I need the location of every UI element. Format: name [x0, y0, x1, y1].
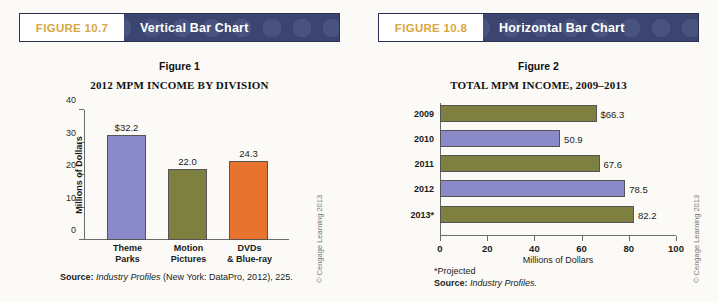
- projected-footnote: *Projected: [434, 266, 476, 276]
- bar-value-2009: $66.3: [601, 108, 625, 119]
- y-tick-0: [79, 239, 84, 240]
- source-prefix: Source:: [60, 272, 94, 282]
- y-tick-label-40: 40: [66, 95, 76, 105]
- bar-value-2012: 78.5: [629, 183, 648, 194]
- source-prefix: Source:: [434, 278, 468, 288]
- source-title: Industry Profiles.: [470, 278, 537, 288]
- category-label-dvds-blue-ray: DVDs & Blue-ray: [216, 243, 283, 265]
- banner-title-left: Vertical Bar Chart: [124, 14, 249, 41]
- category-label-2010: 2010: [414, 134, 434, 144]
- vertical-plot-area: 0 10 20 30 40 Millions of Dollars $32.2 …: [84, 110, 289, 240]
- y-tick-40: [79, 109, 84, 110]
- banner-title-right: Horizontal Bar Chart: [483, 14, 625, 41]
- figure-banner-left: FIGURE 10.7 Vertical Bar Chart: [19, 13, 340, 42]
- bar-value-2013: 82.2: [638, 209, 657, 220]
- figure-label-left: Figure 1: [0, 60, 359, 72]
- category-line-2: Parks: [115, 254, 140, 264]
- horizontal-plot-area: 0 20 40 60 80 100 2009 $66.3 2010 50.9 2…: [440, 103, 676, 236]
- bar-2011: 2011 67.6: [440, 155, 600, 172]
- bar-2013: 2013* 82.2: [440, 206, 634, 223]
- x-tick-80: [629, 236, 630, 241]
- category-line-2: & Blue-ray: [227, 254, 272, 264]
- copyright-right: © Cengage Learning 2013: [692, 195, 701, 283]
- figure-number-tag-left: FIGURE 10.7: [20, 14, 124, 41]
- bar-value-dvds-blue-ray: 24.3: [230, 148, 267, 159]
- x-tick-20: [487, 236, 488, 241]
- x-tick-100: [676, 236, 677, 241]
- source-line-right: Source: Industry Profiles.: [434, 278, 537, 288]
- bar-2009: 2009 $66.3: [440, 105, 597, 122]
- x-tick-40: [534, 236, 535, 241]
- vertical-bar-chart-panel: FIGURE 10.7 Vertical Bar Chart Figure 1 …: [0, 0, 359, 301]
- x-axis-line: [440, 235, 676, 236]
- bar-theme-parks: $32.2 Theme Parks: [107, 135, 146, 240]
- source-detail: (New York: DataPro, 2012), 225.: [163, 272, 293, 282]
- x-tick-0: [440, 236, 441, 241]
- y-axis-line: [84, 110, 85, 240]
- x-tick-label-60: 60: [576, 243, 587, 254]
- bar-value-theme-parks: $32.2: [108, 122, 145, 133]
- source-title: Industry Profiles: [96, 272, 161, 282]
- chart-title-left: 2012 MPM INCOME BY DIVISION: [0, 79, 359, 91]
- x-axis-title: Millions of Dollars: [440, 255, 676, 265]
- bar-motion-pictures: 22.0 Motion Pictures: [168, 169, 207, 241]
- y-axis-title: Millions of Dollars: [74, 136, 84, 214]
- category-label-2009: 2009: [414, 109, 434, 119]
- x-tick-label-40: 40: [529, 243, 540, 254]
- figure-banner-right: FIGURE 10.8 Horizontal Bar Chart: [378, 13, 699, 42]
- y-tick-label-0: 0: [71, 225, 76, 235]
- bar-value-motion-pictures: 22.0: [169, 156, 206, 167]
- category-line-1: DVDs: [237, 243, 261, 253]
- bar-2012: 2012 78.5: [440, 180, 625, 197]
- category-label-2011: 2011: [414, 159, 434, 169]
- category-label-2013: 2013*: [410, 210, 434, 220]
- category-label-theme-parks: Theme Parks: [96, 243, 159, 265]
- copyright-left: © Cengage Learning 2013: [315, 195, 324, 283]
- category-label-2012: 2012: [414, 184, 434, 194]
- category-label-motion-pictures: Motion Pictures: [157, 243, 220, 265]
- category-line-1: Theme: [113, 243, 142, 253]
- bar-dvds-blue-ray: 24.3 DVDs & Blue-ray: [229, 161, 268, 240]
- bar-2010: 2010 50.9: [440, 130, 560, 147]
- category-line-2: Pictures: [171, 254, 207, 264]
- bar-value-2011: 67.6: [604, 158, 623, 169]
- category-line-1: Motion: [174, 243, 204, 253]
- x-tick-label-80: 80: [624, 243, 635, 254]
- x-tick-label-100: 100: [668, 243, 684, 254]
- x-tick-label-20: 20: [482, 243, 493, 254]
- x-tick-label-0: 0: [437, 243, 442, 254]
- source-line-left: Source: Industry Profiles (New York: Dat…: [60, 272, 293, 282]
- figure-label-right: Figure 2: [359, 60, 718, 72]
- bar-value-2010: 50.9: [564, 133, 583, 144]
- x-tick-60: [582, 236, 583, 241]
- figure-number-tag-right: FIGURE 10.8: [379, 14, 483, 41]
- chart-title-right: TOTAL MPM INCOME, 2009–2013: [359, 79, 718, 91]
